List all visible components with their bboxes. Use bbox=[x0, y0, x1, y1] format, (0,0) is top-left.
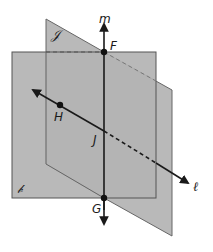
point-h bbox=[57, 102, 63, 108]
label-line-m: m bbox=[99, 12, 111, 26]
point-g bbox=[101, 195, 107, 201]
label-point-f: F bbox=[110, 39, 118, 53]
label-point-g: G bbox=[92, 202, 101, 216]
point-f bbox=[101, 49, 107, 55]
plane-b bbox=[12, 52, 156, 198]
label-point-h: H bbox=[54, 110, 63, 124]
geometry-diagram: 𝒥 𝒷 m ℓ F G H J bbox=[0, 0, 213, 252]
label-line-l: ℓ bbox=[193, 179, 199, 194]
